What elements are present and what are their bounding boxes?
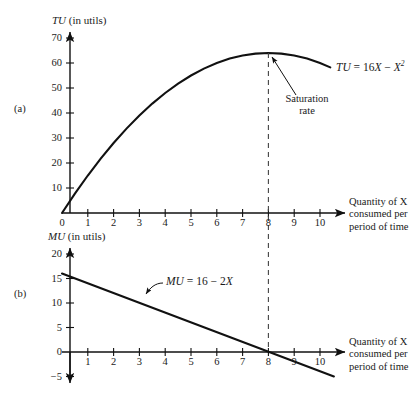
panel-a-ytick-70: 70 <box>40 32 62 44</box>
panel-b-xtick-8: 8 <box>259 356 277 368</box>
panel-b-xtick-5: 5 <box>182 356 200 368</box>
panel-b-x-axis-caption: Quantity of Xconsumed perperiod of time <box>349 336 408 373</box>
panel-b-ytick-0: 0 <box>36 346 62 358</box>
panel-b-xtick-1: 1 <box>79 356 97 368</box>
mu-equation-label: MU = 16 − 2X <box>166 275 233 289</box>
panel-b-xtick-2: 2 <box>105 356 123 368</box>
panel-a-xtick-3: 3 <box>130 217 148 229</box>
panel-b-label: (b) <box>14 288 26 300</box>
panel-a-xtick-4: 4 <box>156 217 174 229</box>
tu-equation-label: TU = 16X − X2 <box>336 60 405 74</box>
panel-a-xtick-10: 10 <box>311 217 329 229</box>
panel-a-xtick-5: 5 <box>182 217 200 229</box>
panel-a-label: (a) <box>14 103 26 115</box>
saturation-rate-annotation: Saturationrate <box>276 93 338 118</box>
mu-label-leader <box>146 283 163 294</box>
panel-a-xtick-8: 8 <box>259 217 277 229</box>
panel-a-axes <box>62 32 345 217</box>
panel-a-ytick-30: 30 <box>40 132 62 144</box>
panel-a-ytick-40: 40 <box>40 107 62 119</box>
utility-curves-figure: TU (in utils) (a) 10 20 30 40 50 60 70 0… <box>0 0 418 401</box>
panel-b-ytick-neg5: −5 <box>36 371 62 383</box>
panel-a-x-axis-caption: Quantity of Xconsumed perperiod of time <box>349 196 408 233</box>
panel-a-xtick-7: 7 <box>234 217 252 229</box>
panel-b-xtick-4: 4 <box>156 356 174 368</box>
panel-b-y-axis-title: MU (in utils) <box>48 230 105 243</box>
saturation-rate-leader <box>272 57 296 95</box>
panel-a-y-axis-title: TU (in utils) <box>52 14 106 27</box>
panel-a-xtick-1: 1 <box>79 217 97 229</box>
panel-b-xtick-6: 6 <box>208 356 226 368</box>
panel-b-ytick-15: 15 <box>36 273 62 285</box>
panel-b-xtick-7: 7 <box>234 356 252 368</box>
panel-a-xtick-6: 6 <box>208 217 226 229</box>
panel-b-xtick-9: 9 <box>285 356 303 368</box>
panel-a-ytick-10: 10 <box>40 182 62 194</box>
panel-b-ytick-5: 5 <box>36 322 62 334</box>
total-utility-curve <box>62 53 330 213</box>
panel-b-xtick-3: 3 <box>130 356 148 368</box>
panel-b-ytick-20: 20 <box>36 248 62 260</box>
panel-a-ytick-50: 50 <box>40 82 62 94</box>
panel-a-xtick-9: 9 <box>285 217 303 229</box>
panel-a-xtick-0: 0 <box>53 217 71 229</box>
panel-a-ytick-60: 60 <box>40 57 62 69</box>
panel-b-xtick-10: 10 <box>311 356 329 368</box>
panel-a-ytick-20: 20 <box>40 157 62 169</box>
panel-b-ytick-10: 10 <box>36 297 62 309</box>
panel-a-xtick-2: 2 <box>105 217 123 229</box>
